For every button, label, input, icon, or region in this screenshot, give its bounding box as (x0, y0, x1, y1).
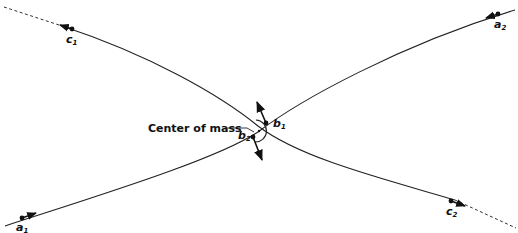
trajectory-c (4, 7, 516, 228)
label-c1: c1 (66, 33, 78, 47)
two-body-trajectory-diagram: Center of mass c1 c2 a1 a2 b1 b2 (0, 0, 518, 233)
center-of-mass-dot (258, 130, 260, 132)
trajectory-a (5, 10, 515, 226)
point-b2 (251, 135, 262, 160)
trajectory-c-solid (62, 26, 455, 200)
label-c2: c2 (446, 205, 458, 219)
label-b1: b1 (273, 117, 286, 131)
center-of-mass-label: Center of mass (148, 122, 242, 135)
label-a2: a2 (494, 18, 506, 32)
trajectory-c-dashed-end (455, 200, 516, 228)
point-b1 (257, 102, 268, 125)
trajectory-a-solid (5, 10, 515, 226)
trajectory-c-dashed-start (4, 7, 62, 26)
label-a1: a1 (16, 221, 28, 233)
label-b2: b2 (238, 129, 251, 143)
